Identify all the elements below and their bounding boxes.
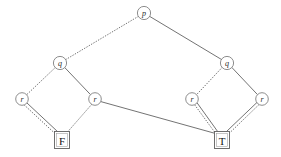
- node-q-left[interactable]: q: [53, 56, 66, 69]
- node-r-3[interactable]: r: [186, 93, 199, 106]
- edge-q-left-low-to-r1: [27, 68, 55, 95]
- node-p-label: p: [141, 9, 146, 18]
- bdd-canvas: p q q r r r r: [0, 0, 281, 157]
- edge-r3-low-to-true: [195, 105, 216, 134]
- terminal-false-label: F: [59, 135, 65, 147]
- edge-r2-low-to-false: [68, 105, 92, 132]
- edge-r2-high-to-true: [101, 102, 216, 134]
- edge-q-right-high-to-r4: [232, 68, 257, 95]
- edge-q-left-high-to-r2: [65, 68, 91, 95]
- edge-q-right-low-to-r3: [197, 68, 222, 95]
- node-layer: p q q r r r r: [16, 6, 269, 105]
- node-q-left-label: q: [58, 59, 62, 68]
- edge-p-low-to-q-left: [66, 16, 139, 59]
- edge-layer: [25, 16, 260, 134]
- terminal-true-label: T: [219, 135, 226, 147]
- node-r-1[interactable]: r: [16, 93, 29, 106]
- node-r-2[interactable]: r: [89, 93, 102, 106]
- terminal-false[interactable]: F: [55, 132, 70, 149]
- edge-r4-low-to-true: [229, 105, 260, 134]
- edge-r4-high-to-true: [226, 103, 257, 132]
- bdd-figure: p q q r r r r: [0, 0, 281, 157]
- node-q-right[interactable]: q: [220, 56, 233, 69]
- edge-r1-low-to-false: [25, 105, 56, 134]
- terminal-layer: F T: [55, 132, 230, 149]
- edge-r3-high-to-true: [197, 103, 218, 132]
- node-p[interactable]: p: [137, 6, 150, 19]
- edge-r1-high-to-false: [27, 103, 58, 132]
- node-q-right-label: q: [225, 59, 229, 68]
- terminal-true[interactable]: T: [215, 132, 230, 149]
- node-r-4[interactable]: r: [256, 93, 269, 106]
- edge-p-high-to-q-right: [150, 16, 222, 59]
